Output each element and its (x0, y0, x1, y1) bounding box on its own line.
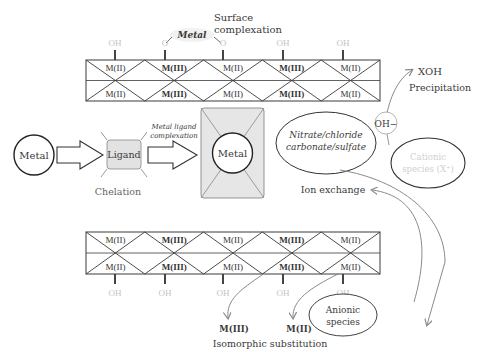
cationic-label-2: species (X⁺) (402, 164, 454, 174)
isomorphic-right-label: M(II) (286, 324, 311, 334)
top-layer-upper-cell: M(III) (162, 63, 187, 73)
surface-complexation-title-2: complexation (214, 24, 282, 35)
bottom-layer-upper-cell: M(II) (223, 235, 243, 245)
top-layer-upper-cell: M(II) (105, 63, 125, 73)
chelation-caption: Chelation (95, 186, 141, 197)
bottom-pin-label: OH (217, 288, 230, 298)
complexation-label-1: Metal ligand (151, 123, 197, 131)
ligand-label: Ligand (107, 149, 140, 160)
anion-label-1: Nitrate/chloride (288, 130, 362, 140)
ligand-spoke (141, 169, 147, 177)
surface-complexation-title-1: Surface (214, 12, 253, 23)
metal-tag-label: Metal (176, 30, 207, 40)
top-layer-lower-cell: M(II) (223, 89, 243, 99)
anionic-species-ellipse (309, 294, 377, 336)
chelation-group: Metal Ligand Metal ligand complexation M… (14, 108, 264, 198)
free-metal-label: Metal (19, 150, 48, 161)
bottom-layer-lower-cell: M(II) (223, 262, 243, 272)
top-pin-label: OH (337, 38, 350, 48)
cationic-species-ellipse (391, 138, 465, 188)
diagram-canvas: Surface complexation Metal OHOOOHOH M(II… (0, 0, 481, 352)
ligand-spoke (101, 169, 107, 177)
bottom-pin-label: OH (277, 288, 290, 298)
top-pin-label: O (162, 38, 169, 48)
ligand-spoke (101, 132, 107, 140)
top-layer-lower-cell: M(II) (105, 89, 125, 99)
anion-label-2: carbonate/sulfate (286, 142, 366, 152)
top-pin-label: OH (277, 38, 290, 48)
top-layer-lower-cell: M(III) (279, 89, 304, 99)
top-layer-lower-cell: M(III) (162, 89, 187, 99)
oh-connector (387, 134, 389, 145)
bottom-layer-lower-cell: M(III) (162, 262, 187, 272)
top-layer-lower-cell: M(II) (341, 89, 361, 99)
anionic-label-1: Anionic (325, 305, 360, 315)
bottom-layer-lower-cell: M(III) (279, 262, 304, 272)
bottom-layer-lower-cell: M(II) (341, 262, 361, 272)
diagram-svg: Surface complexation Metal OHOOOHOH M(II… (0, 0, 481, 352)
top-layer: Surface complexation Metal OHOOOHOH M(II… (86, 12, 380, 101)
cationic-label-1: Cationic (410, 152, 446, 162)
top-layer-upper-cell: M(II) (341, 63, 361, 73)
anionic-label-2: species (326, 317, 360, 327)
bottom-layer-upper-cell: M(III) (162, 235, 187, 245)
complexation-label-2: complexation (150, 132, 198, 140)
ligand-spoke (141, 132, 147, 140)
bottom-layer-lower-cell: M(II) (105, 262, 125, 272)
top-pin-label: O (220, 38, 227, 48)
top-layer-upper-cell: M(II) (223, 63, 243, 73)
bottom-layer-upper-cell: M(II) (341, 235, 361, 245)
complex-metal-label: Metal (218, 148, 247, 159)
precipitation-caption: Precipitation (409, 82, 471, 93)
arrow-to-complex-icon (148, 141, 197, 169)
top-layer-upper-cell: M(III) (279, 63, 304, 73)
hydroxide-label: OH− (375, 119, 398, 129)
bottom-layer-upper-cell: M(II) (105, 235, 125, 245)
arrow-to-ligand-icon (57, 141, 103, 169)
isomorphic-caption: Isomorphic substitution (213, 338, 328, 349)
bottom-layer-upper-cell: M(III) (279, 235, 304, 245)
isomorphic-left-label: M(III) (219, 324, 248, 334)
xoh-label: XOH (418, 66, 442, 77)
precipitation-group: XOH Precipitation OH− Cationic species (… (375, 66, 472, 188)
ion-exchange-caption: Ion exchange (301, 184, 366, 195)
substitution-arrow-left (228, 275, 262, 318)
bottom-layer: M(II)M(II)M(III)M(III)M(II)M(II)M(III)M(… (86, 232, 380, 298)
bottom-pin-label: OH (109, 288, 122, 298)
top-pin-label: OH (109, 38, 122, 48)
bottom-pin-label: OH (159, 288, 172, 298)
